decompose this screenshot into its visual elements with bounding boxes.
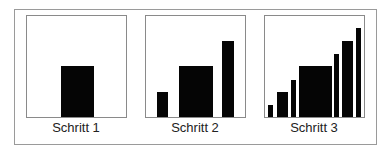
bar — [356, 28, 361, 117]
bar — [334, 54, 339, 117]
panel-step-3 — [264, 15, 365, 118]
panel-label-step-2: Schritt 2 — [135, 120, 255, 135]
panel-step-1 — [26, 15, 127, 118]
bar — [61, 66, 94, 117]
bar — [277, 92, 288, 117]
bar — [222, 41, 234, 117]
bar — [299, 66, 332, 117]
bar — [291, 80, 296, 117]
panel-label-step-1: Schritt 1 — [16, 120, 136, 135]
bar — [179, 66, 213, 117]
bar — [157, 92, 168, 117]
bar — [268, 105, 273, 117]
panel-label-step-3: Schritt 3 — [254, 120, 374, 135]
panel-step-2 — [145, 15, 246, 118]
bar — [342, 41, 353, 117]
